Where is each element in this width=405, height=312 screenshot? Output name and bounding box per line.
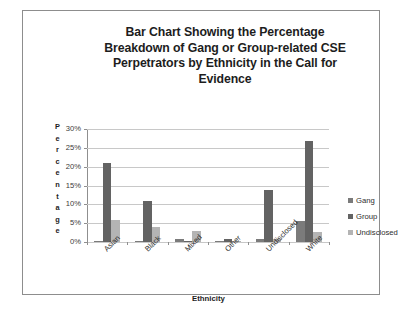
x-axis-tick-mark [289, 242, 290, 245]
legend-swatch-icon [348, 214, 353, 219]
gridline [87, 204, 329, 205]
bar-white-group [305, 141, 314, 242]
bar-asian-gang [94, 241, 103, 243]
bar-asian-group [103, 163, 112, 242]
y-axis-tick-label: 0% [51, 237, 81, 246]
y-axis-tick-label: 30% [51, 124, 81, 133]
bar-group [94, 129, 121, 242]
chart-legend: GangGroupUndisclosed [348, 192, 398, 240]
x-axis-title: Ethnicity [87, 294, 330, 303]
y-axis-tick-mark [84, 167, 87, 168]
y-axis-tick-mark [84, 186, 87, 187]
bar-black-gang [135, 241, 144, 243]
chart-title: Bar Chart Showing the Percentage Breakdo… [51, 25, 399, 87]
y-axis-tick-label: 20% [51, 162, 81, 171]
bar-undisclosed-group [264, 190, 273, 242]
x-axis-tick-mark [208, 242, 209, 245]
bar-group [134, 129, 161, 242]
bar-mixed-gang [175, 239, 184, 242]
legend-label: Undisclosed [356, 228, 398, 237]
bar-group [174, 129, 201, 242]
x-axis-tick-mark [168, 242, 169, 245]
chart-title-line-1: Bar Chart Showing the Percentage [51, 25, 399, 41]
gridline [87, 129, 329, 130]
legend-label: Group [356, 212, 377, 221]
y-axis-tick-mark [84, 223, 87, 224]
bar-group [215, 129, 242, 242]
y-axis-tick-mark [84, 204, 87, 205]
x-axis-tick-mark [248, 242, 249, 245]
y-axis-tick-mark [84, 129, 87, 130]
y-axis-tick-mark [84, 148, 87, 149]
legend-item-group[interactable]: Group [348, 208, 398, 224]
chart-title-line-2: Breakdown of Gang or Group-related CSE [51, 41, 399, 57]
bar-black-group [143, 201, 152, 242]
bar-group [255, 129, 282, 242]
gridline [87, 186, 329, 187]
gridline [87, 148, 329, 149]
chart-frame: Bar Chart Showing the Percentage Breakdo… [22, 10, 380, 295]
chart-title-line-3: Perpetrators by Ethnicity in the Call fo… [51, 56, 399, 72]
legend-swatch-icon [348, 230, 353, 235]
legend-label: Gang [356, 196, 375, 205]
gridline [87, 167, 329, 168]
legend-item-undisclosed[interactable]: Undisclosed [348, 224, 398, 240]
y-axis-tick-label: 5% [51, 218, 81, 227]
bar-undisclosed-gang [256, 239, 265, 242]
x-axis-tick-mark [87, 242, 88, 245]
bar-other-gang [215, 241, 224, 242]
x-axis-tick-mark [329, 242, 330, 245]
y-axis-tick-label: 10% [51, 199, 81, 208]
x-axis-tick-mark [127, 242, 128, 245]
bar-group [295, 129, 322, 242]
y-axis-tick-label: 25% [51, 143, 81, 152]
legend-item-gang[interactable]: Gang [348, 192, 398, 208]
legend-swatch-icon [348, 198, 353, 203]
chart-title-line-4: Evidence [51, 72, 399, 88]
y-axis-tick-label: 15% [51, 181, 81, 190]
